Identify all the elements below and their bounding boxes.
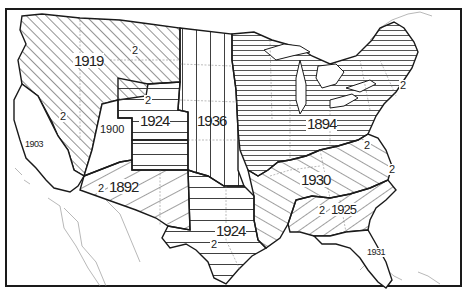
- label-northwest-sub-1: 2: [131, 45, 139, 56]
- region-colorado: [132, 140, 188, 170]
- label-northwest-sub-2: 2: [59, 111, 67, 122]
- label-texas-year: 1924: [215, 223, 246, 238]
- label-midwest-sub: 2: [363, 140, 371, 151]
- label-northeast-sub: 2: [399, 80, 407, 91]
- us-region-map: [0, 0, 467, 293]
- label-plains-year: 1936: [196, 113, 227, 128]
- label-upper-south-sub: 2: [388, 164, 396, 175]
- label-upper-south-year: 1930: [300, 172, 331, 187]
- label-texas-sub: 2: [210, 239, 218, 250]
- label-deep-south-year: 1925: [330, 203, 357, 216]
- label-florida-year: 1931: [366, 248, 386, 257]
- label-southwest-year: 1892: [108, 179, 139, 194]
- label-midwest-year: 1894: [306, 116, 337, 131]
- label-deep-south-sub: 2: [318, 205, 326, 216]
- label-northwest-year: 1919: [73, 53, 104, 68]
- label-california-year: 1903: [24, 140, 44, 149]
- label-southwest-sub: 2: [97, 183, 105, 194]
- label-central-rockies-sub: 2: [144, 95, 152, 106]
- label-central-rockies-year: 1924: [139, 113, 170, 128]
- label-nevada-year: 1900: [99, 124, 125, 135]
